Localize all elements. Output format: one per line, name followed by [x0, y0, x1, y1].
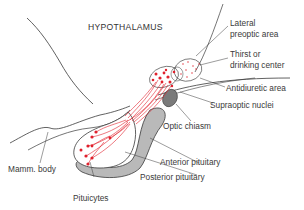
label-pituicytes: Pituicytes	[73, 193, 109, 203]
label-supraoptic-nuclei: Supraoptic nuclei	[210, 100, 274, 110]
label-lateral-preoptic-line1: Lateral	[230, 18, 255, 28]
label-thirst-line1: Thirst or	[230, 49, 260, 59]
label-optic-chiasm: Optic chiasm	[163, 121, 211, 131]
label-anterior-pituitary: Anterior pituitary	[160, 157, 220, 167]
label-mamm-body: Mamm. body	[8, 164, 56, 174]
label-lateral-preoptic-line2: preoptic area	[230, 29, 278, 39]
hypothalamus-title: HYPOTHALAMUS	[88, 22, 163, 32]
optic-chiasm-shape	[160, 87, 180, 109]
hypothalamus-pituitary-diagram: HYPOTHALAMUS Lateral preoptic area Thirs…	[0, 0, 304, 210]
label-antidiuretic-area: Antidiuretic area	[226, 83, 286, 93]
label-posterior-pituitary: Posterior pituitary	[140, 172, 205, 182]
label-thirst-line2: drinking center	[230, 60, 284, 70]
